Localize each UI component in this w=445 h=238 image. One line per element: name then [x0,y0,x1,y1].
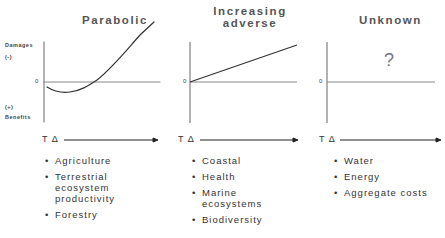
list-item: Forestry [45,209,145,220]
x-label-temperature-change: T Δ [42,134,59,144]
list-item: Health [192,171,282,182]
increasing-adverse-sectors-list: Coastal Health Marine ecosystems Biodive… [192,155,282,230]
list-item: Energy [334,171,444,182]
increasing-adverse-plot [190,42,297,123]
temperature-arrows [64,138,441,142]
list-item: Aggregate costs [334,187,444,198]
list-item: Terrestrial ecosystem productivity [45,171,145,204]
x-label-temperature-change: T Δ [319,134,336,144]
unknown-plot [327,42,435,123]
list-item: Agriculture [45,155,145,166]
list-item: Marine ecosystems [192,187,282,209]
unknown-sectors-list: Water Energy Aggregate costs [334,155,444,203]
parabolic-sectors-list: Agriculture Terrestrial ecosystem produc… [45,155,145,225]
list-item: Coastal [192,155,282,166]
list-item: Water [334,155,444,166]
x-label-temperature-change: T Δ [178,134,195,144]
list-item: Biodiversity [192,214,282,225]
parabolic-plot [44,22,160,122]
